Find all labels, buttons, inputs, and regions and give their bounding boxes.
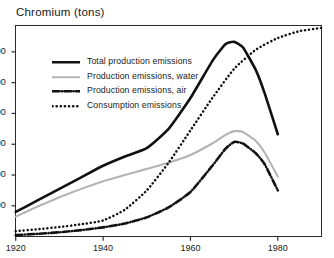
- y-axis-tick-label: 400: [0, 169, 6, 179]
- x-axis-tick-label: 1980: [258, 243, 298, 253]
- x-axis-tick-label: 1940: [83, 243, 123, 253]
- legend-item: Production emissions, water: [52, 70, 222, 85]
- x-axis-ticks: [16, 237, 278, 241]
- legend-item: Total production emissions: [52, 55, 222, 70]
- y-axis-tick-label: 1,000: [0, 77, 6, 87]
- legend-label: Production emissions, water: [87, 71, 198, 81]
- legend-item: Consumption emissions: [52, 99, 222, 114]
- legend-swatch-icon: [52, 99, 80, 114]
- plot-area: [0, 0, 334, 258]
- y-axis-tick-label: 800: [0, 107, 6, 117]
- legend-label: Consumption emissions: [87, 100, 181, 110]
- series-line-1: [16, 131, 278, 217]
- legend-label: Production emissions, air: [87, 85, 187, 95]
- legend-swatch-icon: [52, 70, 80, 85]
- series-line-2: [16, 142, 278, 235]
- legend-label: Total production emissions: [87, 56, 192, 66]
- y-axis-ticks: [12, 52, 16, 206]
- chart-legend: Total production emissionsProduction emi…: [52, 55, 222, 113]
- legend-swatch-icon: [52, 55, 80, 70]
- legend-item: Production emissions, air: [52, 84, 222, 99]
- x-axis-tick-label: 1960: [170, 243, 210, 253]
- x-axis-tick-label: 1920: [0, 243, 36, 253]
- chromium-emissions-figure: Chromium (tons) 2004006008001,0001,200 1…: [0, 0, 334, 258]
- y-axis-tick-label: 1,200: [0, 46, 6, 56]
- legend-swatch-icon: [52, 84, 80, 99]
- y-axis-tick-label: 200: [0, 200, 6, 210]
- y-axis-tick-label: 600: [0, 138, 6, 148]
